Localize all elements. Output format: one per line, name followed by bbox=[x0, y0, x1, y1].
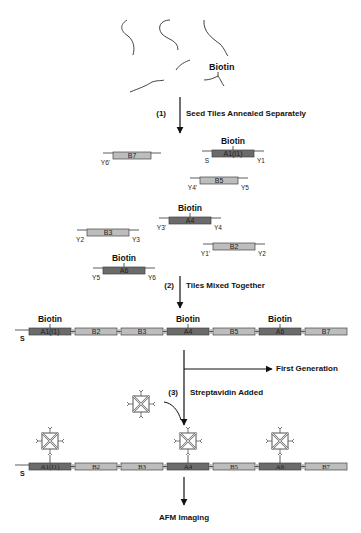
tile-label: B2 bbox=[92, 463, 101, 471]
tile-label: A1(I1) bbox=[223, 150, 242, 158]
streptavidin-icon bbox=[36, 427, 64, 455]
biotin-label: Biotin bbox=[176, 314, 200, 324]
strand-biotin-label: Biotin bbox=[209, 62, 235, 72]
row-tile-a4: A4Biotin bbox=[163, 314, 209, 335]
tile-label: B2 bbox=[230, 243, 239, 250]
tile-label: A4 bbox=[184, 463, 193, 471]
end-label-right: Y2 bbox=[258, 250, 266, 257]
row-tile-b5: B5 bbox=[209, 463, 255, 471]
step2-number: (2) bbox=[164, 281, 174, 290]
strand-1 bbox=[122, 20, 134, 55]
biotin-label: Biotin bbox=[112, 253, 136, 263]
end-label-left: Y6' bbox=[101, 159, 110, 166]
strand-biotin bbox=[204, 76, 224, 86]
end-label-left: Y1' bbox=[201, 250, 210, 257]
tile-label: B2 bbox=[92, 328, 101, 335]
streptavidin-icon bbox=[174, 427, 202, 455]
curved-arrow bbox=[164, 402, 181, 420]
tile-label: B5 bbox=[215, 177, 224, 184]
row-tile-b7: B7 bbox=[301, 328, 347, 335]
end-label-right: Y4 bbox=[214, 224, 222, 231]
end-label-right: Y1 bbox=[257, 157, 265, 164]
step3-number: (3) bbox=[168, 388, 178, 397]
step2-label: Tiles Mixed Together bbox=[186, 281, 265, 290]
end-label-left: S bbox=[205, 157, 210, 164]
tile-a4: A4Y3'Y4Biotin bbox=[157, 203, 223, 231]
tile-label: A4 bbox=[184, 328, 193, 335]
row-tile-b7: B7 bbox=[301, 463, 347, 471]
tile-label: A1(I1) bbox=[40, 463, 60, 471]
end-label-right: Y3 bbox=[132, 236, 140, 243]
end-label-right: Y6 bbox=[148, 274, 156, 281]
streptavidin-icon bbox=[127, 390, 155, 418]
tile-label: B3 bbox=[104, 229, 113, 236]
tile-b3: B3Y2Y3 bbox=[76, 229, 140, 243]
tile-b5: B5Y4'Y5 bbox=[188, 177, 250, 191]
tile-label: A6 bbox=[276, 328, 285, 335]
row-tile-b5: B5 bbox=[209, 328, 255, 335]
step1-label: Seed Tiles Annealed Separately bbox=[186, 109, 307, 118]
tile-label: B5 bbox=[230, 328, 239, 335]
row-tile-a6: A6 bbox=[255, 427, 301, 471]
tile-a1-i1: A1(I1)SY1Biotin bbox=[202, 136, 265, 164]
end-label-left: Y4' bbox=[188, 184, 197, 191]
tile-label: B7 bbox=[322, 328, 331, 335]
strand-2 bbox=[160, 20, 178, 50]
assembled-row-first: SA1(I1)BiotinB2B3A4BiotinB5A6BiotinB7 bbox=[15, 314, 347, 342]
end-label-left: Y2 bbox=[76, 236, 84, 243]
row-tile-a4: A4 bbox=[163, 427, 209, 471]
tile-label: B3 bbox=[138, 463, 147, 471]
tile-label: B7 bbox=[322, 463, 331, 471]
end-label-left: Y5 bbox=[92, 274, 100, 281]
branch-label: First Generation bbox=[276, 364, 338, 373]
row-tile-a1-i1: A1(I1) bbox=[29, 427, 71, 471]
tile-label: A6 bbox=[276, 463, 285, 471]
separate-tiles: B7Y6'A1(I1)SY1BiotinB5Y4'Y5A4Y3'Y4Biotin… bbox=[76, 136, 266, 281]
tile-label: A6 bbox=[120, 267, 129, 274]
biotin-label: Biotin bbox=[178, 203, 202, 213]
biotin-label: Biotin bbox=[221, 136, 245, 146]
streptavidin-icon bbox=[266, 427, 294, 455]
assembled-row-streptavidin: SA1(I1)B2B3A4B5A6B7 bbox=[15, 427, 347, 477]
tile-assembly-diagram: Biotin (1) Seed Tiles Annealed Separatel… bbox=[0, 0, 361, 533]
step3-label: Streptavidin Added bbox=[190, 388, 263, 397]
strand-3 bbox=[204, 20, 228, 56]
end-label-left: Y3' bbox=[157, 224, 166, 231]
strand-5 bbox=[130, 80, 164, 92]
raw-strands bbox=[122, 20, 228, 92]
strand-4 bbox=[176, 60, 190, 70]
tile-label: B7 bbox=[128, 152, 137, 159]
end-label-right: Y5 bbox=[241, 184, 249, 191]
tile-label: B5 bbox=[230, 463, 239, 471]
row-tile-a1-i1: A1(I1)Biotin bbox=[29, 314, 71, 336]
tile-b7: B7Y6' bbox=[101, 152, 161, 166]
tile-b2: B2Y1'Y2 bbox=[201, 243, 267, 257]
row-tile-a6: A6Biotin bbox=[255, 314, 301, 335]
row-tile-b3: B3 bbox=[117, 328, 163, 335]
start-label: S bbox=[20, 335, 25, 342]
row-tile-b2: B2 bbox=[71, 328, 117, 335]
tile-label: A4 bbox=[186, 217, 195, 224]
biotin-label: Biotin bbox=[38, 314, 62, 324]
tile-label: A1(I1) bbox=[40, 328, 59, 336]
row-tile-b2: B2 bbox=[71, 463, 117, 471]
final-label: AFM Imaging bbox=[159, 513, 209, 522]
row-tile-b3: B3 bbox=[117, 463, 163, 471]
biotin-label: Biotin bbox=[268, 314, 292, 324]
tile-label: B3 bbox=[138, 328, 147, 335]
tile-a6: A6Y5Y6Biotin bbox=[92, 253, 156, 281]
step1-number: (1) bbox=[156, 109, 166, 118]
start-label: S bbox=[20, 470, 25, 477]
